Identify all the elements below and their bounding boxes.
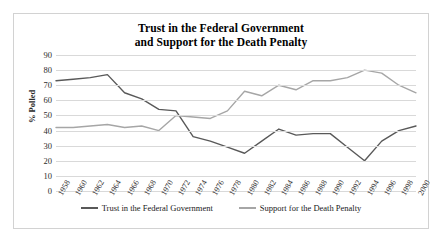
y-axis-tick: 70	[44, 81, 53, 90]
gridline	[56, 176, 416, 177]
legend-label: Support for the Death Penalty	[260, 204, 362, 213]
gridline	[56, 85, 416, 86]
y-axis-tick: 60	[44, 96, 53, 105]
plot-area: 9080706050403020100	[56, 55, 416, 191]
series-line	[56, 75, 416, 161]
legend-item: Support for the Death Penalty	[239, 204, 362, 213]
y-axis-label: % Polled	[28, 90, 37, 123]
gridline	[56, 146, 416, 147]
gridline	[56, 131, 416, 132]
y-axis-tick: 40	[44, 126, 53, 135]
y-axis-tick: 30	[44, 141, 53, 150]
legend-swatch	[81, 207, 98, 209]
chart-title-line-2: and Support for the Death Penalty	[14, 35, 428, 49]
y-axis-tick: 50	[44, 111, 53, 120]
y-axis-tick: 10	[44, 172, 53, 181]
gridline	[56, 161, 416, 162]
chart-title: Trust in the Federal Government and Supp…	[14, 21, 428, 49]
gridline	[56, 70, 416, 71]
series-lines	[56, 55, 416, 191]
chart-legend: Trust in the Federal GovernmentSupport f…	[14, 204, 428, 213]
x-axis-tick: 2000	[417, 179, 432, 197]
y-axis-tick: 20	[44, 157, 53, 166]
chart-container: Trust in the Federal Government and Supp…	[13, 13, 429, 229]
legend-item: Trust in the Federal Government	[81, 204, 213, 213]
y-axis-tick: 90	[44, 51, 53, 60]
legend-label: Trust in the Federal Government	[102, 204, 213, 213]
gridline	[56, 115, 416, 116]
gridline	[56, 100, 416, 101]
y-axis-tick: 0	[48, 187, 52, 196]
chart-title-line-1: Trust in the Federal Government	[14, 21, 428, 35]
y-axis-tick: 80	[44, 66, 53, 75]
legend-swatch	[239, 207, 256, 209]
gridline	[56, 55, 416, 56]
